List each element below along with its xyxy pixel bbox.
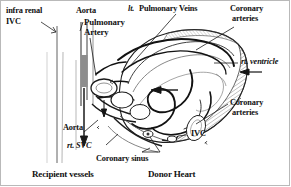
label-coronary-sinus: Coronary sinus [96, 155, 148, 163]
label-ivc-right: IVC [191, 130, 206, 138]
label-aorta-top: Aorta [76, 7, 96, 15]
label-arteries-top: arteries [232, 15, 258, 23]
caption-recipient-vessels: Recipient vessels [32, 170, 94, 179]
label-rt-svc: rt. SVC [67, 142, 91, 150]
donor-heart-silhouette [119, 30, 247, 143]
vessel-shadow [81, 55, 88, 87]
recipient-vessel-lines [47, 26, 63, 163]
caption-donor-heart: Donor Heart [148, 170, 195, 179]
label-lt-prefix: lt. [128, 5, 134, 13]
label-rt-ventricle: rt. ventricle [241, 58, 278, 66]
infra-renal-leader [41, 22, 56, 33]
label-aorta-bottom: Aorta [63, 124, 83, 132]
label-artery: Artery [84, 28, 109, 37]
figure-canvas: infra renal IVC Aorta Pulmonary Artery l… [0, 0, 291, 187]
label-coronary-top: Coronary [230, 5, 263, 13]
label-infra-renal: infra renal [6, 7, 42, 15]
label-ivc-left: IVC [6, 18, 21, 26]
label-pulmonary-veins: Pulmonary Veins [139, 5, 197, 13]
label-coronary-right: Coronary [230, 99, 263, 107]
label-arteries-right: arteries [232, 109, 258, 117]
label-pulmonary: Pulmonary [84, 18, 125, 27]
